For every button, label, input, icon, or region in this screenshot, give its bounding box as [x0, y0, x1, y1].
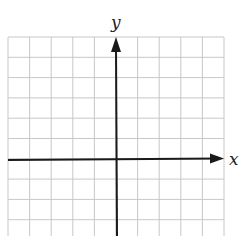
x-axis-label: x: [229, 149, 239, 169]
coordinate-plane: x y: [0, 0, 247, 236]
x-axis-arrow-icon: [210, 154, 224, 164]
y-axis-arrow-icon: [111, 37, 121, 52]
y-axis: [116, 47, 117, 236]
y-axis-label: y: [110, 12, 121, 32]
